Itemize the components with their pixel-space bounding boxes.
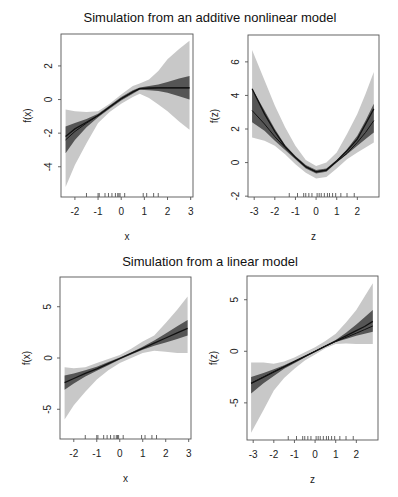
x-tick-label: 1	[333, 449, 339, 460]
y-tick-label: -2	[44, 128, 55, 137]
x-tick-label: 1	[334, 206, 340, 217]
outer-confidence-band	[252, 50, 374, 178]
x-tick-label: 3	[186, 448, 192, 459]
x-axis-label: z	[311, 231, 316, 242]
y-tick-label: 0	[43, 355, 54, 361]
x-tick-label: 2	[355, 206, 361, 217]
plot-frame	[247, 276, 378, 440]
fit-line	[65, 328, 188, 382]
panel-fx-linear: -2-10123-505xf(x)	[21, 277, 192, 484]
y-axis-label: f(x)	[22, 108, 33, 122]
y-tick-label: 4	[231, 92, 242, 98]
y-tick-label: 0	[230, 348, 241, 354]
x-axis-label: z	[310, 474, 315, 485]
x-tick-label: 2	[354, 449, 360, 460]
x-axis-label: x	[125, 231, 130, 242]
x-tick-label: -3	[249, 449, 258, 460]
y-tick-label: -4	[44, 162, 55, 171]
x-tick-label: -2	[270, 206, 279, 217]
x-tick-label: -3	[250, 206, 259, 217]
x-tick-label: -1	[291, 206, 300, 217]
top-title: Simulation from an additive nonlinear mo…	[84, 10, 337, 25]
y-tick-label: 5	[230, 297, 241, 303]
x-tick-label: 2	[165, 206, 171, 217]
x-tick-label: 0	[312, 449, 318, 460]
x-tick-label: -2	[69, 448, 78, 459]
y-tick-label: -5	[230, 398, 241, 407]
x-tick-label: 2	[163, 448, 169, 459]
bottom-title: Simulation from a linear model	[122, 254, 298, 269]
panel-fz-linear: -3-2-1012-505zf(z)	[208, 276, 379, 485]
x-tick-label: -1	[92, 448, 101, 459]
y-tick-label: 6	[231, 59, 242, 65]
x-tick-label: -2	[269, 449, 278, 460]
x-tick-label: 3	[188, 206, 194, 217]
x-axis-label: x	[123, 473, 128, 484]
figure: Simulation from an additive nonlinear mo…	[0, 0, 398, 497]
x-tick-label: 0	[117, 448, 123, 459]
y-tick-label: 0	[44, 96, 55, 102]
y-tick-label: 2	[44, 63, 55, 69]
x-tick-label: 1	[142, 206, 148, 217]
y-tick-label: -5	[43, 404, 54, 413]
y-tick-label: 0	[231, 159, 242, 165]
x-tick-label: -2	[70, 206, 79, 217]
panel-fx-nonlinear: -2-10123-4-202xf(x)	[22, 34, 194, 242]
x-tick-label: 1	[140, 448, 146, 459]
x-tick-label: -1	[94, 206, 103, 217]
outer-confidence-band	[66, 41, 190, 187]
y-tick-label: -2	[231, 191, 242, 200]
x-tick-label: 0	[313, 206, 319, 217]
y-axis-label: f(z)	[209, 109, 220, 123]
x-tick-label: 0	[118, 206, 124, 217]
y-tick-label: 5	[43, 304, 54, 310]
x-tick-label: -1	[290, 449, 299, 460]
y-tick-label: 2	[231, 126, 242, 132]
y-axis-label: f(z)	[208, 351, 219, 365]
y-axis-label: f(x)	[21, 351, 32, 365]
panel-fz-nonlinear: -3-2-1012-20246zf(z)	[209, 35, 380, 242]
outer-confidence-band	[251, 283, 373, 433]
outer-confidence-band	[65, 297, 188, 420]
